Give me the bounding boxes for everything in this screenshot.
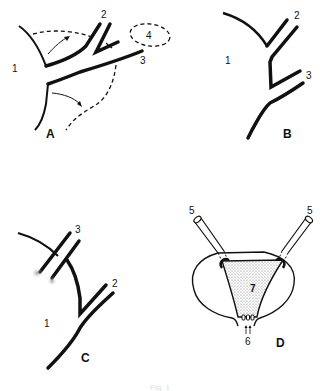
label-b-3: 3 xyxy=(306,70,312,81)
arrows-6 xyxy=(246,327,250,334)
panel-label-b: B xyxy=(283,127,292,141)
figure-caption: Fig. 1 xyxy=(150,383,171,391)
panel-label-c: C xyxy=(81,351,90,365)
vessel-wall-upper xyxy=(223,13,267,46)
label-d-7: 7 xyxy=(250,283,256,294)
label-d-5-left: 5 xyxy=(189,205,195,216)
urethral-orifice xyxy=(251,315,254,320)
arrow-head xyxy=(249,325,252,328)
tube-right xyxy=(282,218,312,253)
branch-3 xyxy=(48,51,142,84)
panel-a: 1 2 3 4 A xyxy=(12,9,171,141)
label-b-1: 1 xyxy=(225,55,231,66)
urethral-orifice xyxy=(242,315,245,320)
tube-left-end xyxy=(193,215,202,224)
arrow-upper-curve xyxy=(48,37,68,54)
arrow-head xyxy=(245,325,248,328)
branch-2-outer xyxy=(46,24,100,66)
urethral-orifice xyxy=(247,315,250,320)
label-c-1: 1 xyxy=(44,318,50,329)
frayed-end-left xyxy=(31,267,43,279)
panel-label-a: A xyxy=(46,127,55,141)
branch-3 xyxy=(248,83,303,138)
panel-label-d: D xyxy=(276,336,285,350)
tube-left xyxy=(194,218,224,253)
label-c-3: 3 xyxy=(75,224,81,235)
label-a-3: 3 xyxy=(140,55,146,66)
tube-right-end xyxy=(304,215,313,224)
label-b-2: 2 xyxy=(294,10,300,21)
frayed-end-right xyxy=(47,276,57,286)
panel-c: 3 2 1 C xyxy=(18,224,118,368)
panel-d: 5 5 6 7 D xyxy=(189,205,314,350)
branch-3-cut-outer xyxy=(40,233,70,272)
vessel-wall-upper xyxy=(18,233,58,256)
label-a-1: 1 xyxy=(12,63,18,74)
dashed-flap-upper xyxy=(33,31,92,37)
arrow-lower-curve xyxy=(52,93,80,104)
label-d-5-right: 5 xyxy=(307,205,313,216)
vessel-wall-lower xyxy=(35,84,48,130)
figure-canvas: 1 2 3 4 A 2 1 3 B 3 2 1 C xyxy=(0,0,325,391)
label-a-4: 4 xyxy=(146,30,152,41)
label-a-2: 2 xyxy=(101,9,107,20)
label-d-6: 6 xyxy=(245,336,251,347)
panel-b: 2 1 3 B xyxy=(223,10,312,141)
label-c-2: 2 xyxy=(112,278,118,289)
